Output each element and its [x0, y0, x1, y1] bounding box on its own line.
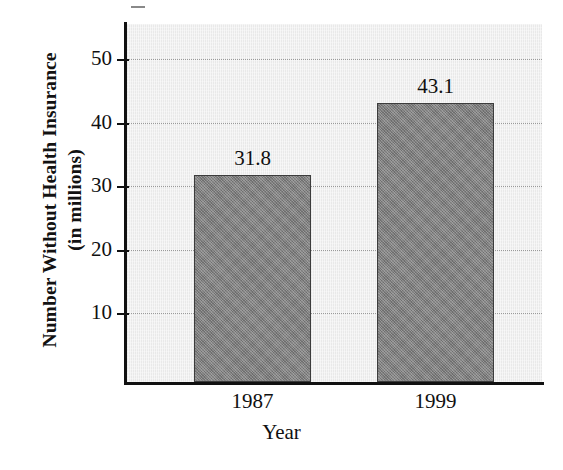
y-tick-mark-30 [117, 186, 129, 188]
bar-1987[interactable] [194, 175, 311, 382]
y-tick-mark-40 [117, 123, 129, 125]
gridline-50 [126, 59, 542, 60]
x-tick-label-1999: 1999 [366, 389, 506, 414]
x-tick-label-1987: 1987 [183, 389, 323, 414]
bar-value-label-1987: 31.8 [174, 146, 331, 171]
scan-artifact [131, 6, 145, 8]
y-tick-label-10: 10 [72, 300, 112, 325]
y-tick-label-30: 30 [72, 173, 112, 198]
y-axis-line [124, 22, 127, 384]
y-tick-mark-10 [117, 313, 129, 315]
y-tick-label-20: 20 [72, 237, 112, 262]
x-axis-title: Year [0, 420, 563, 445]
bar-chart-figure: Number Without Health Insurance (in mill… [0, 0, 563, 470]
x-axis-line [124, 382, 544, 385]
y-tick-label-40: 40 [72, 110, 112, 135]
y-axis-title-line1: Number Without Health Insurance [38, 52, 63, 347]
y-tick-mark-20 [117, 250, 129, 252]
y-tick-mark-50 [117, 59, 129, 61]
bar-1999[interactable] [377, 103, 494, 382]
bar-value-label-1999: 43.1 [357, 74, 514, 99]
y-tick-label-50: 50 [72, 46, 112, 71]
